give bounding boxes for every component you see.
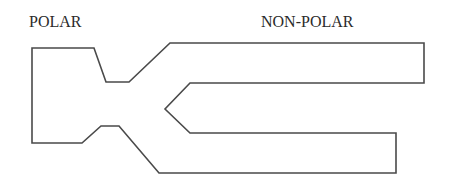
non-polar-label: NON-POLAR: [261, 13, 354, 30]
channel-diagram: POLAR NON-POLAR: [0, 0, 450, 187]
polar-label: POLAR: [29, 13, 82, 30]
channel-outline: [32, 43, 424, 173]
